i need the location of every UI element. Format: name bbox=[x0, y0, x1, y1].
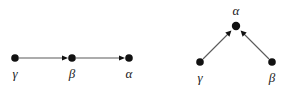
node-label-gamma: γ bbox=[197, 70, 203, 85]
node-gamma bbox=[11, 54, 19, 62]
figure-root: γ β α α γ β bbox=[0, 0, 296, 89]
node-gamma bbox=[196, 58, 204, 66]
arrowhead-into-beta bbox=[62, 55, 68, 60]
edge-gamma-to-alpha bbox=[203, 33, 229, 59]
node-beta bbox=[68, 54, 76, 62]
chain-diagram-panel: γ β α bbox=[0, 0, 148, 89]
node-label-alpha: α bbox=[126, 66, 134, 81]
node-beta bbox=[268, 58, 276, 66]
node-label-beta: β bbox=[68, 66, 76, 81]
edge-beta-to-alpha bbox=[243, 33, 269, 59]
collider-diagram-panel: α γ β bbox=[148, 0, 296, 89]
node-label-beta: β bbox=[268, 70, 276, 85]
chain-graph-svg: γ β α bbox=[0, 0, 148, 89]
collider-graph-svg: α γ β bbox=[148, 0, 296, 89]
arrowhead-into-alpha bbox=[119, 55, 125, 60]
node-label-gamma: γ bbox=[12, 66, 18, 81]
node-alpha bbox=[232, 22, 240, 30]
node-alpha bbox=[125, 54, 133, 62]
node-label-alpha: α bbox=[233, 3, 241, 18]
